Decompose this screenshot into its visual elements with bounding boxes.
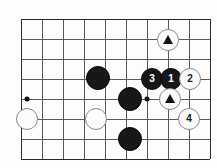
go-board-diagram: 3124: [0, 0, 217, 168]
white-stone-left[interactable]: [16, 108, 38, 130]
triangle-marker-icon: [163, 35, 173, 44]
white-stone-mid-left[interactable]: [85, 108, 107, 130]
triangle-marker-icon: [165, 94, 175, 103]
black-stone-upper-left[interactable]: [86, 66, 110, 90]
black-stone-bottom[interactable]: [118, 127, 142, 151]
white-stone-marked-center[interactable]: [159, 88, 181, 110]
stone-move-number: 3: [149, 74, 155, 84]
white-stone-move-4[interactable]: 4: [178, 108, 200, 130]
stone-move-number: 4: [186, 114, 192, 124]
black-stone-center[interactable]: [118, 87, 142, 111]
white-stone-move-2[interactable]: 2: [179, 68, 201, 90]
stone-move-number: 2: [187, 74, 193, 84]
stone-move-number: 1: [168, 74, 174, 84]
board-stones: 3124: [0, 0, 217, 168]
white-stone-marked-top[interactable]: [157, 29, 179, 51]
